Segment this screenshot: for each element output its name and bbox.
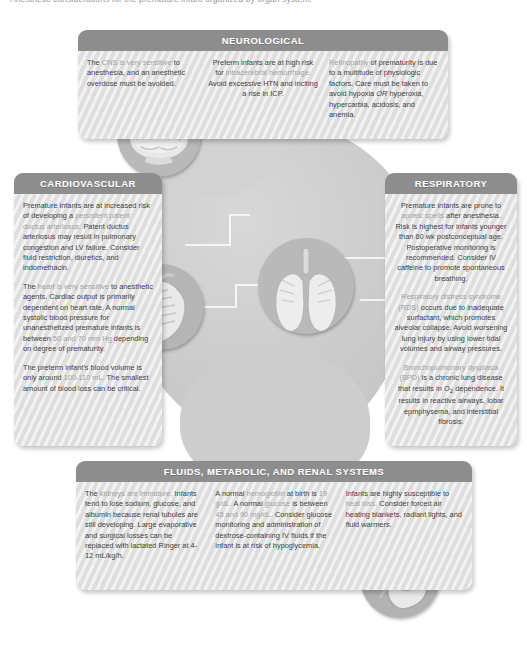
cardiovascular-text: Premature infants are at increased risk … bbox=[23, 201, 153, 394]
neuro-column-1: The CNS is very sensitive to anesthesia,… bbox=[87, 58, 197, 130]
panel-fluids-metabolic-renal: FLUIDS, METABOLIC, AND RENAL SYSTEMS The… bbox=[76, 461, 472, 590]
paragraph: Preterm infants are at high risk for int… bbox=[208, 58, 318, 100]
panel-respiratory-body: Premature infants are prone to apneic sp… bbox=[385, 194, 517, 446]
paragraph: The kidneys are immature. Infants tend t… bbox=[85, 489, 202, 562]
fluids-column-1: The kidneys are immature. Infants tend t… bbox=[85, 489, 202, 581]
panel-fluids-body: The kidneys are immature. Infants tend t… bbox=[76, 482, 472, 590]
fluids-column-3: Infants are highly susceptible to heat l… bbox=[346, 489, 463, 581]
neuro-column-3: Retinopathy of prematurity is due to a m… bbox=[329, 58, 439, 130]
figure-caption: Anesthetic considerations for the premat… bbox=[10, 0, 430, 5]
panel-neurological-title: NEUROLOGICAL bbox=[78, 30, 448, 51]
lungs-icon bbox=[258, 238, 354, 334]
paragraph: The heart is very sensitive to anestheti… bbox=[23, 282, 153, 355]
panel-fluids-title: FLUIDS, METABOLIC, AND RENAL SYSTEMS bbox=[76, 461, 472, 482]
paragraph: Respiratory distress syndrome (RDS) occu… bbox=[394, 292, 508, 354]
paragraph: A normal hemoglobin at birth is 19 g/dL.… bbox=[215, 489, 332, 551]
fluids-column-2: A normal hemoglobin at birth is 19 g/dL.… bbox=[215, 489, 332, 581]
paragraph: Retinopathy of prematurity is due to a m… bbox=[329, 58, 439, 120]
panel-respiratory-title: RESPIRATORY bbox=[385, 173, 517, 194]
paragraph: Premature infants are prone to apneic sp… bbox=[394, 201, 508, 284]
paragraph: Bronchopulmonary dysplasia (BPD) is a ch… bbox=[394, 363, 508, 428]
paragraph: Infants are highly susceptible to heat l… bbox=[346, 489, 463, 531]
panel-cardiovascular: CARDIOVASCULAR Premature infants are at … bbox=[14, 173, 162, 446]
paragraph: The CNS is very sensitive to anesthesia,… bbox=[87, 58, 197, 89]
panel-neurological-body: The CNS is very sensitive to anesthesia,… bbox=[78, 51, 448, 139]
respiratory-text: Premature infants are prone to apneic sp… bbox=[394, 201, 508, 428]
panel-respiratory: RESPIRATORY Premature infants are prone … bbox=[385, 173, 517, 446]
neuro-column-2: Preterm infants are at high risk for int… bbox=[208, 58, 318, 130]
panel-cardiovascular-body: Premature infants are at increased risk … bbox=[14, 194, 162, 446]
paragraph: The preterm infant's blood volume is onl… bbox=[23, 363, 153, 394]
panel-cardiovascular-title: CARDIOVASCULAR bbox=[14, 173, 162, 194]
paragraph: Premature infants are at increased risk … bbox=[23, 201, 153, 274]
panel-neurological: NEUROLOGICAL The CNS is very sensitive t… bbox=[78, 30, 448, 139]
